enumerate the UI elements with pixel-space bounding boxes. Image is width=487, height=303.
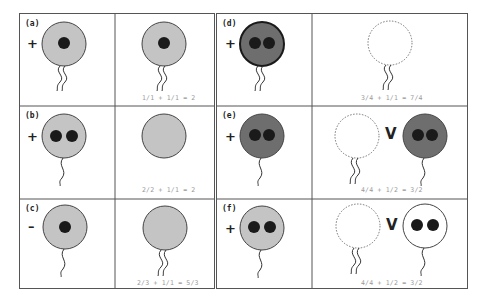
- cell-icon: [0, 0, 487, 300]
- equation: 4/4 + 1/2 = 3/2: [361, 279, 423, 287]
